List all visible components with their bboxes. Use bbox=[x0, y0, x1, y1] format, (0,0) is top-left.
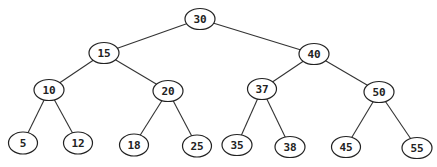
tree-node-40: 40 bbox=[299, 44, 329, 65]
tree-node-30: 30 bbox=[185, 9, 215, 30]
node-label: 18 bbox=[127, 139, 140, 152]
node-label: 12 bbox=[71, 137, 84, 150]
node-label: 38 bbox=[283, 141, 296, 154]
tree-node-5: 5 bbox=[9, 132, 38, 154]
node-label: 40 bbox=[307, 48, 320, 61]
tree-node-38: 38 bbox=[275, 137, 305, 158]
tree-nodes: 30154010203750512182535384555 bbox=[9, 9, 433, 159]
tree-node-37: 37 bbox=[248, 79, 277, 100]
node-label: 50 bbox=[372, 86, 385, 99]
node-label: 25 bbox=[190, 140, 203, 153]
node-label: 30 bbox=[193, 13, 206, 26]
edge-30-40 bbox=[200, 19, 314, 54]
tree-node-25: 25 bbox=[183, 135, 212, 157]
tree-node-15: 15 bbox=[89, 43, 119, 64]
tree-node-55: 55 bbox=[402, 138, 432, 159]
binary-tree-diagram: 30154010203750512182535384555 bbox=[0, 0, 437, 167]
node-label: 37 bbox=[255, 83, 268, 96]
tree-node-50: 50 bbox=[364, 82, 394, 103]
tree-node-10: 10 bbox=[34, 80, 64, 101]
node-label: 35 bbox=[230, 139, 243, 152]
tree-node-20: 20 bbox=[153, 81, 183, 102]
node-label: 5 bbox=[20, 137, 27, 150]
tree-edges bbox=[23, 19, 417, 148]
node-label: 10 bbox=[42, 84, 55, 97]
node-label: 45 bbox=[339, 141, 352, 154]
tree-node-45: 45 bbox=[332, 137, 361, 158]
tree-node-18: 18 bbox=[120, 134, 149, 156]
edge-30-15 bbox=[104, 19, 200, 53]
node-label: 55 bbox=[410, 142, 423, 155]
node-label: 15 bbox=[97, 47, 110, 60]
tree-node-12: 12 bbox=[64, 132, 93, 154]
tree-node-35: 35 bbox=[222, 135, 252, 156]
node-label: 20 bbox=[161, 85, 174, 98]
